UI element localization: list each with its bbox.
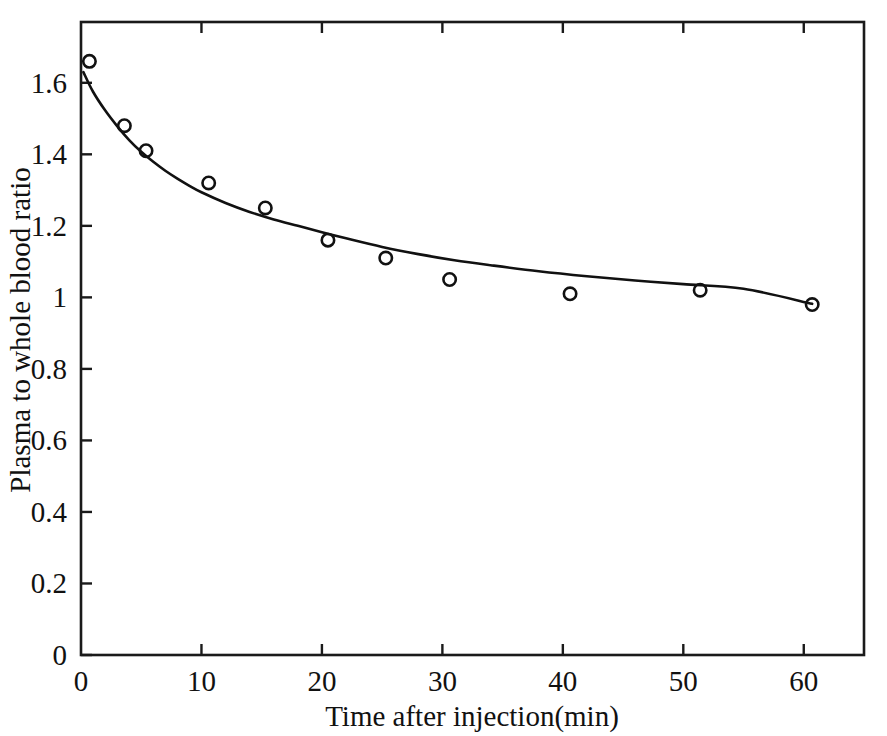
x-tick-label-6: 60	[789, 665, 818, 697]
y-tick-label-2: 0.4	[31, 496, 68, 528]
plot-frame	[81, 22, 864, 655]
data-point	[443, 273, 455, 285]
x-axis-tick-labels: 0102030405060	[74, 665, 819, 697]
x-tick-label-5: 50	[669, 665, 698, 697]
y-tick-label-7: 1.4	[31, 138, 68, 170]
data-point	[322, 234, 334, 246]
fitted-curve	[83, 72, 812, 304]
data-point	[83, 55, 95, 67]
y-tick-label-6: 1.2	[31, 210, 67, 242]
y-tick-label-0: 0	[53, 639, 68, 671]
y-axis-tick-labels: 00.20.40.60.811.21.41.6	[31, 67, 68, 671]
y-axis-title: Plasma to whole blood ratio	[4, 167, 36, 492]
x-axis-title: Time after injection(min)	[325, 700, 619, 733]
data-point	[118, 120, 130, 132]
y-tick-label-8: 1.6	[31, 67, 67, 99]
data-point-markers	[83, 55, 818, 311]
data-point	[564, 288, 576, 300]
y-tick-label-5: 1	[53, 281, 68, 313]
x-tick-label-0: 0	[74, 665, 89, 697]
chart-canvas: 00.20.40.60.811.21.41.6 0102030405060 Ti…	[0, 0, 887, 736]
x-axis-ticks	[201, 22, 803, 655]
y-tick-label-4: 0.8	[31, 353, 67, 385]
x-tick-label-3: 30	[428, 665, 457, 697]
y-axis-ticks	[81, 83, 92, 655]
y-tick-label-1: 0.2	[31, 567, 67, 599]
data-point	[380, 252, 392, 264]
y-tick-label-3: 0.6	[31, 424, 67, 456]
x-tick-label-4: 40	[548, 665, 577, 697]
x-tick-label-2: 20	[307, 665, 336, 697]
data-point	[202, 177, 214, 189]
x-tick-label-1: 10	[187, 665, 216, 697]
data-point	[259, 202, 271, 214]
figure-container: 00.20.40.60.811.21.41.6 0102030405060 Ti…	[0, 0, 887, 736]
